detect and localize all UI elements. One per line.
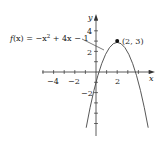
vertex-point-icon <box>115 39 119 43</box>
function-label-body: (x) = −x <box>13 34 47 43</box>
x-tick-label: −2 <box>68 77 80 86</box>
vertex-label: (2, 3) <box>122 37 144 46</box>
y-axis-label: y <box>87 13 93 22</box>
x-tick-label: 2 <box>115 77 120 86</box>
y-axis-arrow-icon <box>94 14 98 20</box>
y-tick-label: 2 <box>87 48 92 57</box>
function-leader-line <box>82 39 104 50</box>
x-axis-label: x <box>149 74 154 83</box>
y-tick-label: −2 <box>81 89 93 98</box>
function-graph: −4 −2 2 x 4 2 −2 y (2, 3) f(x) = −x2 + 4… <box>0 0 164 141</box>
x-tick-label: −4 <box>47 77 59 86</box>
function-label: f(x) = −x2 + 4x − 1 <box>9 33 89 43</box>
function-label-tail: + 4x − 1 <box>50 34 88 43</box>
